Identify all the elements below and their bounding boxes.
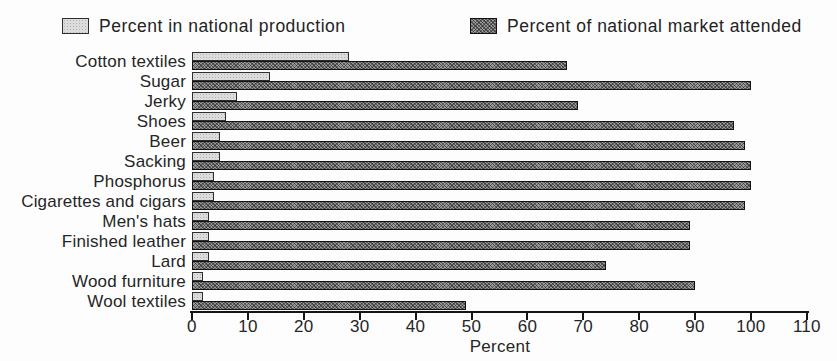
bar-market — [192, 221, 690, 230]
bar-production — [192, 292, 203, 301]
bar-market — [192, 161, 751, 170]
bar-production — [192, 112, 226, 121]
bar-production — [192, 192, 214, 201]
x-axis-tick-label: 20 — [282, 318, 326, 336]
bar-market — [192, 101, 578, 110]
bar-market — [192, 81, 751, 90]
bar-market — [192, 201, 745, 210]
category-label: Shoes — [0, 112, 186, 131]
bar-market — [192, 121, 734, 130]
bar-production — [192, 172, 214, 181]
bar-production — [192, 232, 209, 241]
legend-label-production: Percent in national production — [99, 16, 346, 36]
category-label: Sugar — [0, 72, 186, 91]
bar-production — [192, 252, 209, 261]
x-axis-title: Percent — [400, 337, 600, 357]
category-label: Lard — [0, 252, 186, 271]
x-axis-tick-label: 90 — [673, 318, 717, 336]
bar-market — [192, 61, 567, 70]
bar-production — [192, 152, 220, 161]
x-axis-tick-label: 110 — [785, 318, 829, 336]
bar-production — [192, 52, 349, 61]
x-axis-tick-label: 80 — [617, 318, 661, 336]
x-axis-tick-label: 30 — [338, 318, 382, 336]
x-axis-tick-label: 10 — [226, 318, 270, 336]
category-label: Men's hats — [0, 212, 186, 231]
category-label: Jerky — [0, 92, 186, 111]
bar-market — [192, 301, 466, 310]
x-axis-tick-label: 100 — [729, 318, 773, 336]
x-axis-tick-label: 60 — [505, 318, 549, 336]
x-axis-tick-label: 70 — [561, 318, 605, 336]
legend-swatch-market — [470, 18, 497, 34]
category-label: Cotton textiles — [0, 52, 186, 71]
category-label: Cigarettes and cigars — [0, 192, 186, 211]
category-label: Wood furniture — [0, 272, 186, 291]
bar-market — [192, 261, 606, 270]
x-axis-tick-label: 40 — [394, 318, 438, 336]
bar-production — [192, 212, 209, 221]
x-axis-line — [190, 311, 809, 313]
bar-chart-figure: Percent in national production Percent o… — [0, 0, 837, 361]
bar-production — [192, 72, 270, 81]
category-label: Wool textiles — [0, 292, 186, 311]
x-axis-tick-label: 50 — [450, 318, 494, 336]
category-label: Phosphorus — [0, 172, 186, 191]
bar-production — [192, 272, 203, 281]
category-label: Sacking — [0, 152, 186, 171]
x-axis-tick-label: 0 — [170, 318, 214, 336]
bar-market — [192, 141, 745, 150]
bar-production — [192, 92, 237, 101]
legend-swatch-production — [62, 18, 89, 34]
bar-production — [192, 132, 220, 141]
bar-market — [192, 281, 695, 290]
category-label: Finished leather — [0, 232, 186, 251]
bar-market — [192, 241, 690, 250]
category-label: Beer — [0, 132, 186, 151]
legend-label-market: Percent of national market attended — [507, 16, 802, 36]
bar-market — [192, 181, 751, 190]
